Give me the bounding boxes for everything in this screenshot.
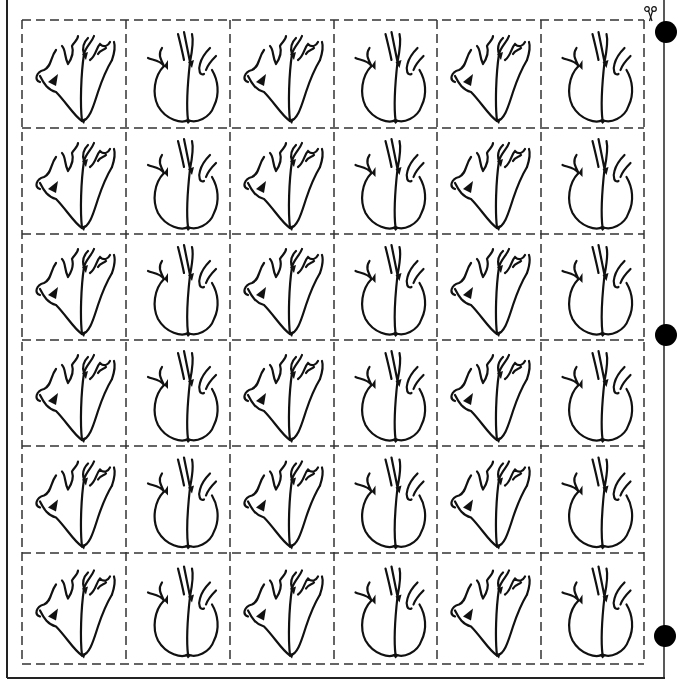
- heart-front-view-icon: [563, 32, 633, 124]
- heart-side-view-icon: [37, 36, 115, 124]
- heart-front-view-icon: [356, 458, 426, 550]
- heart-front-view-icon: [356, 32, 426, 124]
- heart-front-view-icon: [563, 139, 633, 231]
- heart-front-view-icon: [356, 567, 426, 659]
- heart-front-view-icon: [563, 245, 633, 337]
- heart-side-view-icon: [37, 571, 115, 659]
- heart-side-view-icon: [37, 143, 115, 231]
- heart-side-view-icon: [245, 355, 323, 443]
- worksheet: [0, 0, 685, 687]
- heart-side-view-icon: [245, 571, 323, 659]
- heart-side-view-icon: [37, 462, 115, 550]
- heart-side-view-icon: [452, 355, 530, 443]
- heart-side-view-icon: [452, 249, 530, 337]
- heart-front-view-icon: [148, 351, 218, 443]
- heart-side-view-icon: [245, 36, 323, 124]
- cut-grid: [22, 20, 644, 664]
- heart-front-view-icon: [148, 245, 218, 337]
- heart-front-view-icon: [148, 139, 218, 231]
- heart-front-view-icon: [356, 139, 426, 231]
- heart-front-view-icon: [148, 458, 218, 550]
- heart-front-view-icon: [148, 567, 218, 659]
- heart-side-view-icon: [245, 143, 323, 231]
- binder-hole-icon: [655, 21, 677, 43]
- heart-front-view-icon: [356, 245, 426, 337]
- heart-side-view-icon: [245, 462, 323, 550]
- heart-front-view-icon: [148, 32, 218, 124]
- binder-hole-icon: [655, 324, 677, 346]
- heart-front-view-icon: [563, 458, 633, 550]
- heart-side-view-icon: [245, 249, 323, 337]
- heart-side-view-icon: [452, 36, 530, 124]
- heart-side-view-icon: [37, 249, 115, 337]
- heart-front-view-icon: [356, 351, 426, 443]
- heart-front-view-icon: [563, 351, 633, 443]
- binder-hole-icon: [654, 625, 676, 647]
- heart-side-view-icon: [452, 462, 530, 550]
- heart-side-view-icon: [37, 355, 115, 443]
- heart-side-view-icon: [452, 143, 530, 231]
- scissors-icon: [645, 7, 657, 21]
- heart-front-view-icon: [563, 567, 633, 659]
- heart-side-view-icon: [452, 571, 530, 659]
